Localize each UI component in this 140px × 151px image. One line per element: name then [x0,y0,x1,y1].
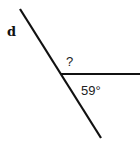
unknown-angle-label: ? [66,54,73,69]
angle-diagram: d ? 59° [0,0,140,151]
line-d-label: d [7,24,16,39]
known-angle-label: 59° [81,83,101,98]
